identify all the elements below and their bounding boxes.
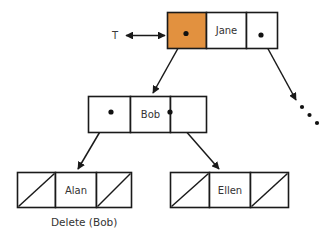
ellipsis-dot-3 [315,121,319,125]
root-node-jane[interactable]: Jane [168,13,278,49]
bob-key-label: Bob [141,109,160,120]
alan-key-label: Alan [65,185,87,196]
diagram-canvas: T Jane Bob [0,0,329,237]
bob-left-pointer-cell[interactable] [89,97,131,133]
jane-right-pointer-cell[interactable] [247,13,278,49]
ellipsis-dot-1 [300,105,304,109]
external-pointer-T: T [111,30,165,41]
jane-left-pointer-cell[interactable] [168,13,207,49]
ellen-node[interactable]: Ellen [171,173,289,208]
bob-node[interactable]: Bob [89,97,207,133]
bob-right-pointer-cell[interactable] [171,97,207,133]
figure-caption: Delete (Bob) [51,216,117,228]
jane-left-pointer-dot [183,31,188,36]
bob-left-pointer-dot [108,109,113,114]
alan-node[interactable]: Alan [18,173,132,208]
ellen-key-label: Ellen [218,185,242,196]
bob-right-pointer-dot [167,109,172,114]
ellipsis-dots [300,105,319,125]
ellipsis-dot-2 [307,113,311,117]
bst-delete-diagram: T Jane Bob [0,0,329,237]
jane-right-pointer-dot [258,32,263,37]
pointer-label-T: T [111,30,119,41]
jane-key-label: Jane [215,25,238,36]
